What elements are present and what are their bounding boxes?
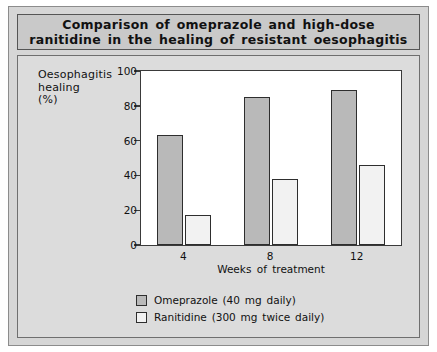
y-axis-tick-label: 60 xyxy=(124,135,137,147)
bar-12-weeks-series-0 xyxy=(331,90,357,245)
bar-4-weeks-series-1 xyxy=(185,215,211,245)
title-line-2: ranitidine in the healing of resistant o… xyxy=(29,32,407,47)
plot-area: 020406080100 xyxy=(140,70,402,246)
x-axis-tick-labels: 4812 xyxy=(140,246,402,262)
x-axis-label: Weeks of treatment xyxy=(140,263,402,275)
y-axis-tick-label: 0 xyxy=(130,239,137,251)
bar-8-weeks-series-1 xyxy=(272,179,298,245)
chart-body-panel: Oesophagitis healing (%) 020406080100 48… xyxy=(17,55,420,338)
y-axis-tick-label: 40 xyxy=(124,169,137,181)
x-axis-tick-label: 12 xyxy=(350,250,363,262)
x-axis-tick-label: 8 xyxy=(267,250,274,262)
page-title: Comparison of omeprazole and high-dose r… xyxy=(23,17,413,47)
bar-8-weeks-series-0 xyxy=(244,97,270,245)
figure-title-box: Comparison of omeprazole and high-dose r… xyxy=(17,14,420,50)
y-axis-label-line-3: (%) xyxy=(38,94,112,107)
legend-swatch-icon xyxy=(136,295,147,306)
legend-item: Ranitidine (300 mg twice daily) xyxy=(136,311,324,323)
x-axis-tick-label: 4 xyxy=(180,250,187,262)
legend-item-label: Omeprazole (40 mg daily) xyxy=(154,294,296,306)
bar-12-weeks-series-1 xyxy=(359,165,385,245)
legend-swatch-icon xyxy=(136,312,147,323)
y-axis-label-line-1: Oesophagitis xyxy=(38,69,112,82)
title-line-1: Comparison of omeprazole and high-dose xyxy=(62,17,375,32)
y-axis-tick-label: 100 xyxy=(117,65,137,77)
figure-panel: Comparison of omeprazole and high-dose r… xyxy=(8,6,429,346)
legend-item-label: Ranitidine (300 mg twice daily) xyxy=(154,311,324,323)
y-axis-tick-label: 20 xyxy=(124,204,137,216)
chart-legend: Omeprazole (40 mg daily)Ranitidine (300 … xyxy=(136,294,324,328)
legend-item: Omeprazole (40 mg daily) xyxy=(136,294,324,306)
bar-4-weeks-series-0 xyxy=(157,135,183,245)
y-axis-tick-label: 80 xyxy=(124,100,137,112)
y-axis-label: Oesophagitis healing (%) xyxy=(38,69,112,107)
